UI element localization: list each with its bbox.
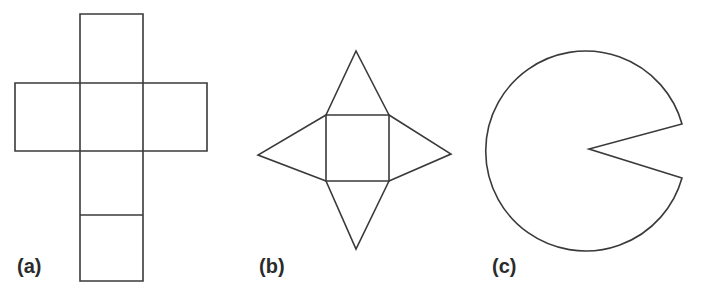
figure-label-b: (b) <box>259 256 285 276</box>
pyramid-net-triangle-right <box>389 115 451 181</box>
pyramid-net-triangle-left <box>258 115 326 181</box>
figure-canvas <box>0 0 709 295</box>
figure-label-a: (a) <box>17 256 41 276</box>
figure-c-sector-circle <box>486 51 682 251</box>
pyramid-net-base-square <box>326 115 389 181</box>
cube-net-horizontal-strip <box>15 83 207 151</box>
figure-label-c: (c) <box>492 256 516 276</box>
figure-a-cube-net <box>15 14 207 281</box>
cube-net-vertical-strip <box>80 14 143 281</box>
circle-with-wedge-removed <box>486 51 682 251</box>
figure-board: (a) (b) (c) <box>0 0 709 295</box>
figure-b-pyramid-net <box>258 51 451 249</box>
pyramid-net-triangle-bottom <box>326 181 389 249</box>
pyramid-net-triangle-top <box>326 51 389 115</box>
